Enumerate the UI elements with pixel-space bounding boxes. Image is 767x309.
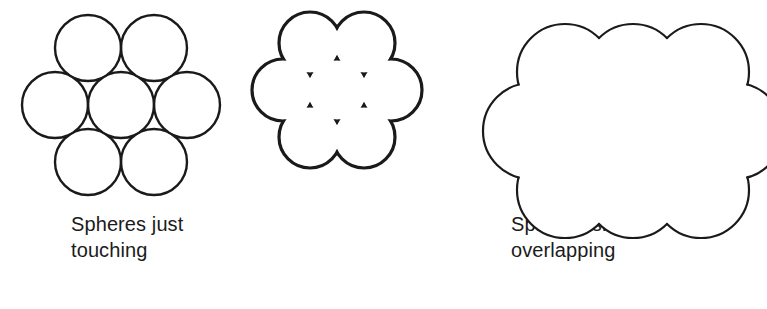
circle-fills (252, 12, 422, 168)
diagram-spheres-just-touching (0, 0, 240, 205)
circle-fills (483, 24, 767, 238)
overlapping-spheres-hexagon-network-svg (450, 0, 767, 245)
panel-overlapping-spheres-hexagons: Overlapping spheres give a network of he… (450, 0, 767, 309)
panel-spheres-just-touching: Spheres just touching (0, 0, 240, 309)
diagram-overlapping-spheres-hexagon-network (450, 0, 767, 245)
spheres-just-touching-svg (0, 0, 240, 205)
caption-spheres-just-touching: Spheres just touching (71, 211, 241, 263)
panel-spheres-slightly-overlapping: Spheres slightly overlapping (240, 0, 450, 309)
spheres-slightly-overlapping-svg (240, 0, 450, 205)
sphere-packing-figure: Spheres just touching Spheres slightly o… (0, 0, 767, 309)
diagram-spheres-slightly-overlapping (240, 0, 450, 205)
